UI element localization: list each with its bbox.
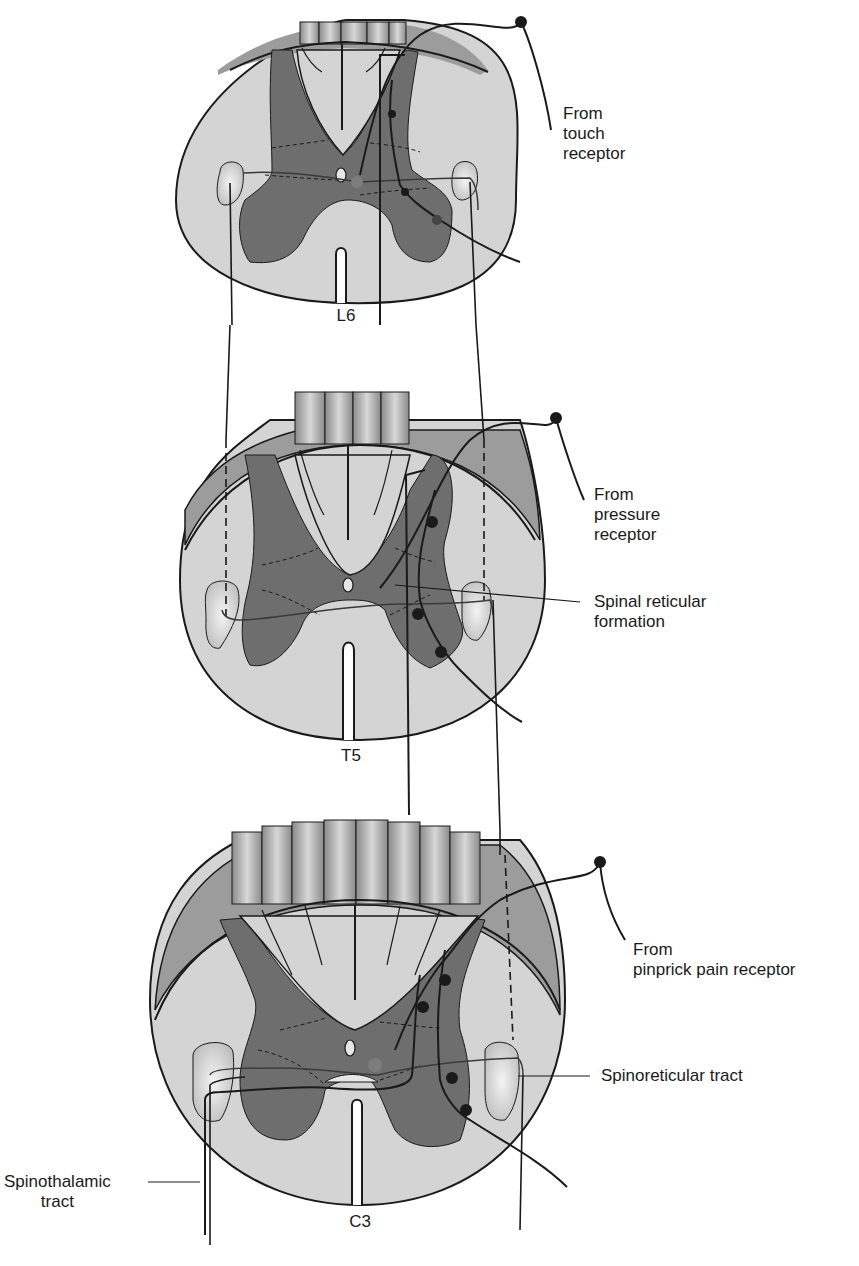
section-l6 [176, 16, 551, 325]
label-pressure-receptor: From pressure receptor [594, 485, 660, 545]
segment-label-l6: L6 [337, 306, 356, 326]
dorsal-columns-t5 [295, 392, 409, 444]
section-t5 [180, 325, 584, 830]
segment-label-t5: T5 [341, 746, 361, 766]
label-spinal-reticular-formation: Spinal reticular formation [594, 592, 706, 632]
label-spinoreticular-tract: Spinoreticular tract [601, 1066, 743, 1086]
dorsal-columns-c3 [232, 820, 480, 904]
dorsal-columns-l6 [300, 22, 406, 44]
segment-label-c3: C3 [349, 1212, 371, 1232]
label-touch-receptor: From touch receptor [563, 104, 625, 164]
section-c3 [148, 820, 625, 1245]
label-pinprick-pain-receptor: From pinprick pain receptor [633, 940, 796, 980]
label-spinothalamic-tract: Spinothalamic tract [4, 1172, 111, 1212]
